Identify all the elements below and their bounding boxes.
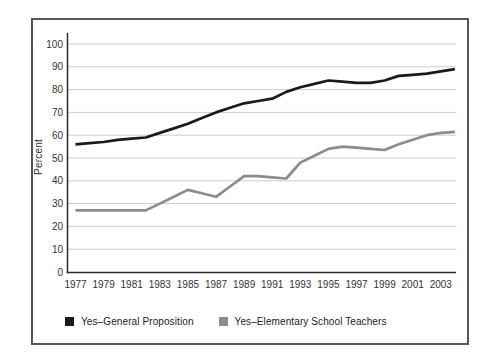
x-tick-label: 1987 <box>205 279 228 290</box>
legend-swatch-general-proposition <box>65 317 74 326</box>
y-tick-label: 90 <box>52 61 64 72</box>
x-tick-labels: 1977197919811983198519871989199119931995… <box>64 279 452 290</box>
x-tick-label: 1995 <box>317 279 340 290</box>
legend-label-general-proposition: Yes–General Proposition <box>81 316 194 327</box>
y-tick-label: 50 <box>52 153 64 164</box>
x-tick-label: 1983 <box>149 279 172 290</box>
x-tick-label: 1979 <box>92 279 115 290</box>
series-lines <box>76 69 455 210</box>
x-tick-label: 2001 <box>402 279 425 290</box>
figure-canvas: 0102030405060708090100 19771979198119831… <box>0 0 483 356</box>
y-tick-labels: 0102030405060708090100 <box>46 39 63 278</box>
x-tick-label: 1999 <box>373 279 396 290</box>
y-tick-label: 40 <box>52 175 64 186</box>
series-line-elementary-school-teachers <box>76 132 455 211</box>
y-tick-label: 80 <box>52 84 64 95</box>
x-tick-label: 1985 <box>177 279 200 290</box>
x-tick-label: 1981 <box>121 279 144 290</box>
legend-entry-general-proposition: Yes–General Proposition <box>65 316 194 327</box>
legend-entry-elementary-school-teachers: Yes–Elementary School Teachers <box>219 316 387 327</box>
legend: Yes–General Proposition Yes–Elementary S… <box>65 316 387 327</box>
y-tick-label: 100 <box>46 39 63 50</box>
legend-label-elementary-school-teachers: Yes–Elementary School Teachers <box>235 316 387 327</box>
axes <box>67 33 456 273</box>
y-tick-label: 20 <box>52 221 64 232</box>
y-tick-label: 30 <box>52 198 64 209</box>
y-tick-label: 10 <box>52 244 64 255</box>
x-tick-label: 1991 <box>261 279 284 290</box>
x-tick-label: 1993 <box>289 279 312 290</box>
x-tick-label: 2003 <box>430 279 453 290</box>
y-tick-label: 70 <box>52 107 64 118</box>
y-tick-label: 0 <box>57 267 63 278</box>
x-tick-label: 1977 <box>64 279 87 290</box>
series-line-general-proposition <box>76 69 455 144</box>
legend-swatch-elementary-school-teachers <box>219 317 228 326</box>
x-tick-label: 1989 <box>233 279 256 290</box>
line-chart: 0102030405060708090100 19771979198119831… <box>0 0 483 356</box>
x-tick-label: 1997 <box>345 279 368 290</box>
y-tick-label: 60 <box>52 130 64 141</box>
y-axis-title: Percent <box>33 131 47 183</box>
